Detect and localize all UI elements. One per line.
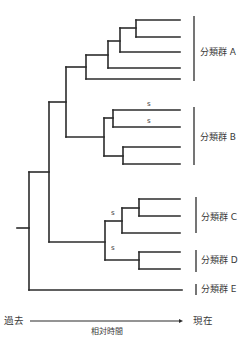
group-label: 分類群 B [200, 132, 236, 142]
tree-branches [17, 20, 182, 290]
support-labels: ssss [111, 100, 151, 252]
time-axis-past-label: 過去 [4, 315, 24, 326]
group-bars [194, 16, 196, 295]
phylogenetic-tree-figure: ssss 分類群 A分類群 B分類群 C分類群 D分類群 E 過去 現在 相対時… [0, 0, 246, 344]
support-label: s [147, 117, 151, 125]
arrow-right-icon [179, 319, 183, 323]
group-label: 分類群 C [201, 212, 237, 222]
time-axis-present-label: 現在 [193, 315, 213, 326]
support-label: s [147, 100, 151, 108]
time-axis-caption: 相対時間 [91, 327, 123, 337]
group-label: 分類群 D [201, 255, 238, 265]
support-label: s [111, 209, 115, 217]
group-label: 分類群 A [200, 47, 236, 57]
time-axis [30, 319, 183, 323]
group-label: 分類群 E [201, 284, 237, 294]
support-label: s [111, 244, 115, 252]
